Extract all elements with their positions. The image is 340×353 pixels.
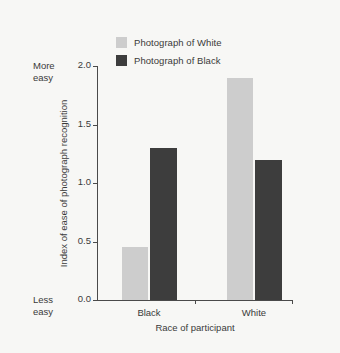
- legend-item-photograph-of-white: Photograph of White: [116, 36, 222, 49]
- y-tick-label-1-5: 1.5: [78, 118, 91, 129]
- legend-label-white-photo: Photograph of White: [134, 37, 222, 48]
- x-tick-group-divider: [195, 300, 196, 304]
- y-tick-label-0-0: 0.0: [78, 293, 91, 304]
- axis-note-less-easy: Less easy: [33, 294, 53, 317]
- bar-black-participant-white-photo: [122, 247, 148, 300]
- bar-white-participant-black-photo: [255, 160, 282, 300]
- y-axis-title-text: Index of ease of photograph recognition: [59, 99, 70, 266]
- x-axis-title: Race of participant: [97, 322, 293, 333]
- chart-legend: Photograph of White Photograph of Black: [116, 36, 222, 67]
- axis-note-more-easy: More easy: [33, 60, 55, 83]
- bar-white-participant-white-photo: [227, 78, 253, 300]
- y-axis-title: Index of ease of photograph recognition: [57, 66, 71, 300]
- legend-swatch-black-photo: [116, 55, 127, 66]
- bar-chart-figure: Photograph of White Photograph of Black …: [0, 0, 340, 353]
- y-tick-label-0-5: 0.5: [78, 235, 91, 246]
- x-tick-right-edge: [292, 300, 293, 304]
- bar-black-participant-black-photo: [150, 148, 177, 300]
- y-tick-label-2-0: 2.0: [78, 59, 91, 70]
- y-axis-line: [97, 66, 98, 300]
- legend-label-black-photo: Photograph of Black: [134, 55, 221, 66]
- plot-area: 2.0 1.5 1.0 0.5 0.0 Black White: [97, 66, 293, 300]
- legend-swatch-white-photo: [116, 37, 127, 48]
- x-tick-label-white: White: [242, 307, 266, 318]
- x-tick-label-black: Black: [137, 307, 160, 318]
- y-tick-label-1-0: 1.0: [78, 176, 91, 187]
